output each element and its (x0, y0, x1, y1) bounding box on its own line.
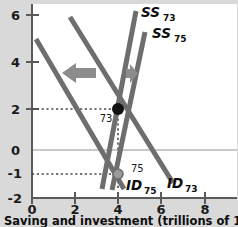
curve-label-id-73-sub: 73 (185, 184, 198, 194)
y-tick-label-4: 4 (11, 55, 20, 70)
equilibrium-label-73: 73 (100, 113, 113, 124)
equilibrium-point-75 (113, 169, 123, 179)
curve-label-ss-73-main: SS (141, 4, 160, 20)
curve-label-ss-75-main: SS (152, 25, 171, 41)
curve-label-id-75-sub: 75 (144, 186, 157, 196)
curve-label-ss-73-sub: 73 (163, 13, 176, 23)
curve-label-ss-75-sub: 75 (174, 34, 187, 44)
equilibrium-label-75: 75 (131, 163, 144, 174)
chart-figure: 6 4 2 0 -1 -2 0 2 4 6 8 (0, 0, 238, 227)
y-tick-label-neg2: -2 (8, 191, 22, 206)
y-tick-label-neg1: -1 (8, 166, 22, 181)
curve-label-id-75-main: ID (126, 177, 142, 193)
curve-label-id-73-main: ID (167, 175, 183, 191)
x-axis-title: Saving and investment (trillions of 1997… (4, 214, 238, 227)
y-tick-label-6: 6 (11, 8, 20, 23)
y-tick-label-2: 2 (11, 102, 20, 117)
equilibrium-point-73 (112, 103, 124, 115)
y-tick-label-0: 0 (11, 143, 20, 158)
chart-canvas: 6 4 2 0 -1 -2 0 2 4 6 8 (0, 0, 238, 227)
